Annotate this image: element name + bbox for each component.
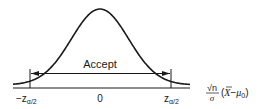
tick-label-zero: 0 — [97, 93, 103, 104]
arrowhead-right-icon — [162, 71, 170, 76]
tick-pos-z-sub: α/2 — [169, 98, 179, 105]
tick-label-neg-z: −zα/2 — [16, 93, 37, 105]
arrowhead-left-icon — [31, 71, 39, 76]
axis-label: √n σ (X−μ0) — [206, 83, 249, 103]
accept-label: Accept — [83, 58, 117, 70]
acceptance-region-diagram: Accept −zα/2 0 zα/2 √n σ (X−μ0) — [0, 0, 267, 109]
tick-neg-z-main: −z — [16, 93, 27, 104]
tick-label-pos-z: zα/2 — [164, 93, 179, 105]
axis-label-denominator: σ — [210, 93, 215, 103]
axis-label-expression: (X−μ0) — [221, 87, 249, 99]
axis-label-numerator: √n — [207, 83, 217, 93]
paren-close: ) — [245, 87, 248, 98]
tick-neg-z-sub: α/2 — [27, 98, 37, 105]
